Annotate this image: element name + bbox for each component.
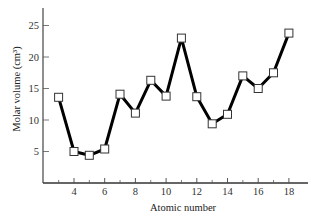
x-tick-label: 10: [161, 186, 172, 197]
data-point-marker: [116, 90, 124, 98]
x-tick-label: 14: [222, 186, 233, 197]
y-axis-label: Molar volume (cm³): [11, 46, 23, 132]
data-point-marker: [147, 76, 155, 84]
molar-volume-chart: 4681012141618 510152025 Atomic number Mo…: [0, 0, 317, 219]
series-line: [59, 33, 289, 155]
data-point-marker: [177, 34, 185, 42]
data-point-marker: [208, 120, 216, 128]
data-point-marker: [162, 92, 170, 100]
data-point-marker: [254, 85, 262, 93]
data-point-marker: [193, 93, 201, 101]
y-tick-label: 25: [29, 20, 40, 31]
data-point-marker: [55, 93, 63, 101]
y-tick-label: 10: [29, 115, 40, 126]
x-axis-ticks: 4681012141618: [59, 178, 295, 197]
x-tick-label: 16: [253, 186, 264, 197]
data-point-marker: [285, 29, 293, 37]
data-point-marker: [101, 145, 109, 153]
x-tick-label: 8: [133, 186, 138, 197]
x-tick-label: 12: [192, 186, 203, 197]
y-tick-label: 5: [34, 146, 39, 157]
y-axis-ticks: 510152025: [29, 20, 50, 157]
data-point-marker: [224, 110, 232, 118]
data-point-marker: [239, 72, 247, 80]
y-tick-label: 20: [29, 52, 40, 63]
data-point-marker: [70, 148, 78, 156]
axes: [43, 8, 308, 183]
x-tick-label: 18: [284, 186, 295, 197]
x-axis-label: Atomic number: [150, 202, 217, 213]
x-tick-label: 4: [71, 186, 77, 197]
data-point-marker: [131, 109, 139, 117]
x-tick-label: 6: [102, 186, 107, 197]
data-point-marker: [85, 151, 93, 159]
data-series: [55, 29, 293, 159]
data-point-marker: [270, 69, 278, 77]
y-tick-label: 15: [29, 83, 40, 94]
